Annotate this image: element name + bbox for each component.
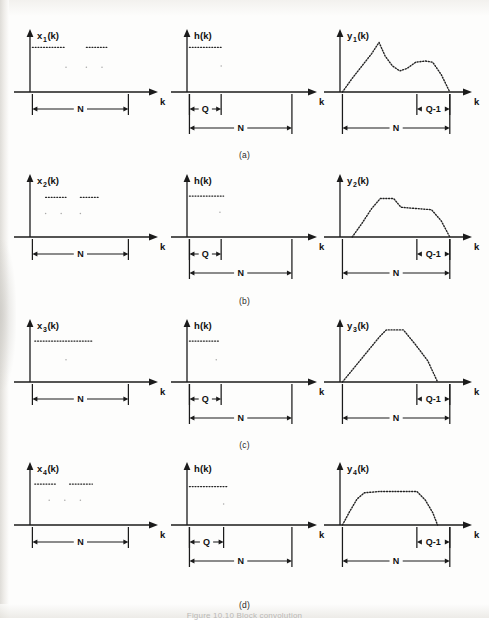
dimension-label: N — [77, 104, 84, 114]
output-waveform — [342, 330, 437, 382]
signal-sample-dot — [220, 65, 222, 67]
plot-d-input: x4(k)kN — [8, 433, 168, 578]
svg-text:(k): (k) — [47, 175, 59, 186]
axis-title: y — [347, 30, 353, 41]
dimension-label: Q-1 — [426, 104, 441, 114]
dimension-label: N — [237, 268, 244, 278]
dimension-label: Q — [203, 537, 210, 547]
signal-sample-dot — [65, 359, 67, 361]
plot-c-impulse: h(k)kQN — [165, 290, 325, 440]
signal-sample-dot — [219, 211, 221, 213]
signal-sample-dot — [48, 499, 50, 501]
plot-d-impulse: h(k)kQN — [165, 433, 325, 583]
plot-cell-b-impulse: h(k)kQN — [165, 145, 325, 295]
dimension-label: N — [77, 394, 84, 404]
dimension-label: N — [237, 413, 244, 423]
dimension-label: N — [393, 123, 400, 133]
dimension-label: N — [237, 123, 244, 133]
svg-text:(k): (k) — [47, 30, 59, 41]
dimension-label: N — [77, 249, 84, 259]
signal-sample-dot — [101, 66, 103, 68]
signal-sample-dot — [45, 213, 47, 215]
plot-cell-d-impulse: h(k)kQN — [165, 433, 325, 583]
plot-cell-a-impulse: h(k)kQN — [165, 0, 325, 150]
svg-text:(k): (k) — [200, 320, 212, 331]
plot-b-output: y2(k)kQ-1N — [318, 145, 489, 295]
plot-b-input: x2(k)kN — [8, 145, 168, 290]
plot-a-impulse: h(k)kQN — [165, 0, 325, 150]
x-axis-label: k — [474, 241, 480, 252]
plot-cell-c-input: x3(k)kN — [8, 290, 168, 435]
dimension-label: Q — [202, 249, 209, 259]
axis-title: y — [347, 463, 353, 474]
dimension-label: Q — [202, 104, 209, 114]
axis-title: y — [347, 175, 353, 186]
signal-sample-dot — [60, 213, 62, 215]
signal-sample-dot — [223, 503, 225, 505]
axis-title: h — [194, 30, 200, 41]
output-waveform — [352, 199, 450, 237]
svg-text:(k): (k) — [200, 30, 212, 41]
svg-text:(k): (k) — [357, 30, 369, 41]
signal-sample-dot — [86, 66, 88, 68]
x-axis-label: k — [474, 96, 480, 107]
plot-c-input: x3(k)kN — [8, 290, 168, 435]
signal-sample-dot — [80, 213, 82, 215]
axis-title: y — [347, 320, 353, 331]
row-label-d: (d) — [0, 600, 489, 610]
plot-cell-c-output: y3(k)kQ-1N — [318, 290, 489, 440]
signal-sample-dot — [216, 359, 218, 361]
svg-text:(k): (k) — [357, 175, 369, 186]
plot-cell-a-input: x1(k)kN — [8, 0, 168, 145]
plot-a-input: x1(k)kN — [8, 0, 168, 145]
output-waveform — [342, 42, 449, 92]
x-axis-label: k — [474, 386, 480, 397]
plot-d-output: y4(k)kQ-1N — [318, 433, 489, 583]
dimension-label: Q-1 — [426, 394, 441, 404]
svg-text:(k): (k) — [47, 463, 59, 474]
row-label-c: (c) — [0, 440, 489, 450]
dimension-label: N — [393, 268, 400, 278]
plot-cell-c-impulse: h(k)kQN — [165, 290, 325, 440]
axis-title: h — [194, 320, 200, 331]
axis-title: h — [194, 463, 200, 474]
svg-text:(k): (k) — [47, 320, 59, 331]
svg-text:(k): (k) — [357, 463, 369, 474]
axis-title: x — [37, 30, 43, 41]
row-label-a: (a) — [0, 150, 489, 160]
output-waveform — [342, 492, 437, 525]
dimension-label: Q — [202, 394, 209, 404]
svg-text:(k): (k) — [200, 175, 212, 186]
axis-title: h — [194, 175, 200, 186]
row-label-b: (b) — [0, 296, 489, 306]
axis-title: x — [37, 175, 43, 186]
plot-row-d: x4(k)kN h(k)kQN y4(k)kQ-1N — [0, 433, 489, 608]
svg-text:(k): (k) — [357, 320, 369, 331]
signal-sample-dot — [65, 66, 67, 68]
dimension-label: Q-1 — [426, 249, 441, 259]
plot-cell-b-output: y2(k)kQ-1N — [318, 145, 489, 295]
plot-cell-d-input: x4(k)kN — [8, 433, 168, 578]
signal-sample-dot — [64, 499, 66, 501]
dimension-label: Q-1 — [426, 537, 441, 547]
axis-title: x — [37, 320, 43, 331]
dimension-label: N — [237, 556, 244, 566]
plot-a-output: y1(k)kQ-1N — [318, 0, 489, 150]
plot-cell-a-output: y1(k)kQ-1N — [318, 0, 489, 150]
plot-c-output: y3(k)kQ-1N — [318, 290, 489, 440]
figure-caption: Figure 10.10 Block convolution — [0, 611, 489, 620]
plot-cell-d-output: y4(k)kQ-1N — [318, 433, 489, 583]
plot-cell-b-input: x2(k)kN — [8, 145, 168, 290]
axis-title: x — [37, 463, 43, 474]
plot-b-impulse: h(k)kQN — [165, 145, 325, 295]
dimension-label: N — [393, 413, 400, 423]
x-axis-label: k — [474, 529, 480, 540]
signal-sample-dot — [80, 499, 82, 501]
svg-text:(k): (k) — [200, 463, 212, 474]
dimension-label: N — [393, 556, 400, 566]
dimension-label: N — [77, 537, 84, 547]
